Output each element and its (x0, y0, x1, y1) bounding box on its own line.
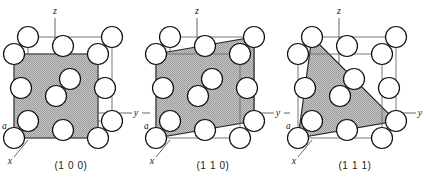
atom-face-center-front (330, 86, 351, 107)
atom-corner (302, 27, 323, 48)
panel-110: z y x a (1 1 0) (142, 0, 284, 191)
atom-corner (18, 111, 39, 132)
atom-corner (386, 27, 407, 48)
atom-face-center-back (202, 69, 223, 90)
atom-corner (88, 44, 109, 65)
atom-face-center-back (344, 69, 365, 90)
z-axis-label: z (336, 5, 341, 16)
atom-face-center-top (195, 36, 216, 57)
atom-corner (160, 111, 181, 132)
crystal-planes-figure: z y x a (1 0 0) (0, 0, 426, 191)
atom-face-center-front (188, 86, 209, 107)
atom-corner (146, 44, 167, 65)
atom-corner (88, 128, 109, 149)
unit-cell-diagram-110: z y x a (142, 0, 284, 165)
atom-face-center-front (46, 86, 67, 107)
z-axis-label: z (52, 5, 57, 16)
caption-100: (1 0 0) (0, 160, 142, 171)
atom-corner (244, 111, 265, 132)
atom-corner (4, 44, 25, 65)
atom-corner (244, 27, 265, 48)
atom-corner (302, 111, 323, 132)
y-axis-label: y (275, 107, 281, 118)
lattice-parameter-label: a (286, 121, 291, 131)
atom-face-center-left (295, 78, 316, 99)
caption-110: (1 1 0) (142, 160, 284, 171)
caption-111: (1 1 1) (284, 160, 426, 171)
unit-cell-diagram-100: z y x a (0, 0, 142, 165)
atom-face-center-top (53, 36, 74, 57)
atom-face-center-bottom (195, 120, 216, 141)
panel-111: z y x a (1 1 1) (284, 0, 426, 191)
atom-face-center-right (379, 78, 400, 99)
atom-corner (102, 111, 123, 132)
panel-100: z y x a (1 0 0) (0, 0, 142, 191)
y-axis-label: y (133, 107, 139, 118)
lattice-parameter-label: a (2, 121, 7, 131)
atom-face-center-left (153, 78, 174, 99)
atom-corner (102, 27, 123, 48)
atom-corner (372, 44, 393, 65)
atom-face-center-left (11, 78, 32, 99)
atom-corner (160, 27, 181, 48)
atom-face-center-bottom (337, 120, 358, 141)
atom-corner (230, 44, 251, 65)
unit-cell-diagram-111: z y x a (284, 0, 426, 165)
z-axis-label: z (194, 5, 199, 16)
y-axis-label: y (417, 107, 423, 118)
atom-corner (18, 27, 39, 48)
atom-face-center-top (337, 36, 358, 57)
atom-corner (372, 128, 393, 149)
atom-face-center-right (95, 78, 116, 99)
atom-face-center-bottom (53, 120, 74, 141)
atom-corner (288, 44, 309, 65)
atom-corner (386, 111, 407, 132)
atom-face-center-right (237, 78, 258, 99)
lattice-parameter-label: a (144, 121, 149, 131)
atom-corner (230, 128, 251, 149)
atom-face-center-back (60, 69, 81, 90)
